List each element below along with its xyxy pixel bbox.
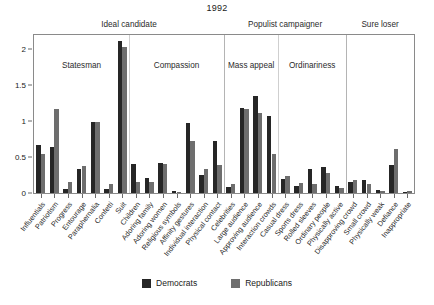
x-tick-mark	[68, 194, 69, 198]
legend-swatch-icon	[231, 279, 240, 288]
x-tick-mark	[109, 194, 110, 198]
bar-republicans-23	[353, 180, 357, 193]
legend-swatch-icon	[142, 279, 151, 288]
bar-republicans-8	[149, 182, 153, 193]
bar-republicans-19	[299, 183, 303, 193]
x-tick-mark	[285, 194, 286, 198]
bar-republicans-1	[54, 109, 58, 193]
legend-label: Republicans	[245, 278, 292, 288]
x-axis-labels: InfluentialsPatriotismProgressEntourageP…	[0, 200, 434, 270]
y-tick-mark	[28, 193, 32, 194]
chart-legend: DemocratsRepublicans	[0, 278, 434, 288]
group-label-ordinariness: Ordinariness	[278, 61, 346, 70]
x-tick-mark	[326, 194, 327, 198]
x-tick-mark	[177, 194, 178, 198]
bar-republicans-9	[163, 164, 167, 193]
x-tick-mark	[380, 194, 381, 198]
supergroup-label-sure-loser: Sure loser	[346, 20, 414, 29]
x-tick-mark	[339, 194, 340, 198]
bar-republicans-7	[136, 182, 140, 193]
bar-republicans-10	[177, 192, 181, 193]
supergroup-separator	[346, 35, 347, 193]
bar-republicans-13	[217, 165, 221, 193]
bar-republicans-3	[82, 166, 86, 193]
bar-republicans-16	[258, 113, 262, 193]
x-tick-mark	[353, 194, 354, 198]
bar-republicans-21	[326, 173, 330, 193]
bar-republicans-24	[367, 184, 371, 193]
x-tick-mark	[95, 194, 96, 198]
x-tick-mark	[54, 194, 55, 198]
y-tick-mark	[28, 49, 32, 50]
supergroup-separator	[224, 35, 225, 193]
supergroup-label-band: Ideal candidatePopulist campaignerSure l…	[0, 20, 434, 33]
x-tick-mark	[367, 194, 368, 198]
bar-republicans-25	[380, 191, 384, 193]
x-tick-mark	[258, 194, 259, 198]
supergroup-label-populist-campaigner: Populist campaigner	[224, 20, 346, 29]
x-tick-mark	[244, 194, 245, 198]
bar-republicans-12	[204, 169, 208, 193]
bar-republicans-14	[231, 184, 235, 193]
supergroup-label-ideal-candidate: Ideal candidate	[34, 20, 224, 29]
x-tick-mark	[394, 194, 395, 198]
x-tick-mark	[136, 194, 137, 198]
figure: 1992 Ideal candidatePopulist campaignerS…	[0, 0, 434, 305]
x-tick-mark	[272, 194, 273, 198]
bar-republicans-20	[312, 184, 316, 193]
bar-republicans-18	[285, 176, 289, 193]
x-tick-mark	[299, 194, 300, 198]
x-tick-mark	[122, 194, 123, 198]
x-tick-mark	[204, 194, 205, 198]
x-tick-mark	[163, 194, 164, 198]
y-tick-mark	[28, 85, 32, 86]
x-tick-mark	[217, 194, 218, 198]
bar-republicans-15	[244, 109, 248, 193]
bar-republicans-17	[272, 154, 276, 194]
group-label-statesman: Statesman	[34, 61, 129, 70]
x-tick-mark	[82, 194, 83, 198]
bar-republicans-2	[68, 182, 72, 193]
bar-republicans-4	[95, 122, 99, 193]
bar-republicans-26	[394, 149, 398, 193]
x-tick-mark	[407, 194, 408, 198]
bar-republicans-27	[407, 191, 411, 193]
plot-area: StatesmanCompassionMass appealOrdinarine…	[33, 34, 415, 194]
bar-republicans-0	[41, 154, 45, 194]
y-tick-mark	[28, 121, 32, 122]
legend-label: Democrats	[156, 278, 197, 288]
x-tick-mark	[41, 194, 42, 198]
bar-republicans-11	[190, 141, 194, 193]
bar-republicans-22	[339, 188, 343, 193]
x-tick-mark	[312, 194, 313, 198]
x-tick-mark	[231, 194, 232, 198]
chart-title: 1992	[0, 3, 434, 13]
group-separator	[278, 35, 279, 193]
legend-item-republicans: Republicans	[231, 278, 292, 288]
group-label-compassion: Compassion	[129, 61, 224, 70]
x-tick-mark	[149, 194, 150, 198]
bar-republicans-5	[109, 184, 113, 193]
group-label-mass-appeal: Mass appeal	[224, 61, 278, 70]
group-separator	[129, 35, 130, 193]
x-tick-mark	[190, 194, 191, 198]
y-tick-mark	[28, 157, 32, 158]
legend-item-democrats: Democrats	[142, 278, 197, 288]
